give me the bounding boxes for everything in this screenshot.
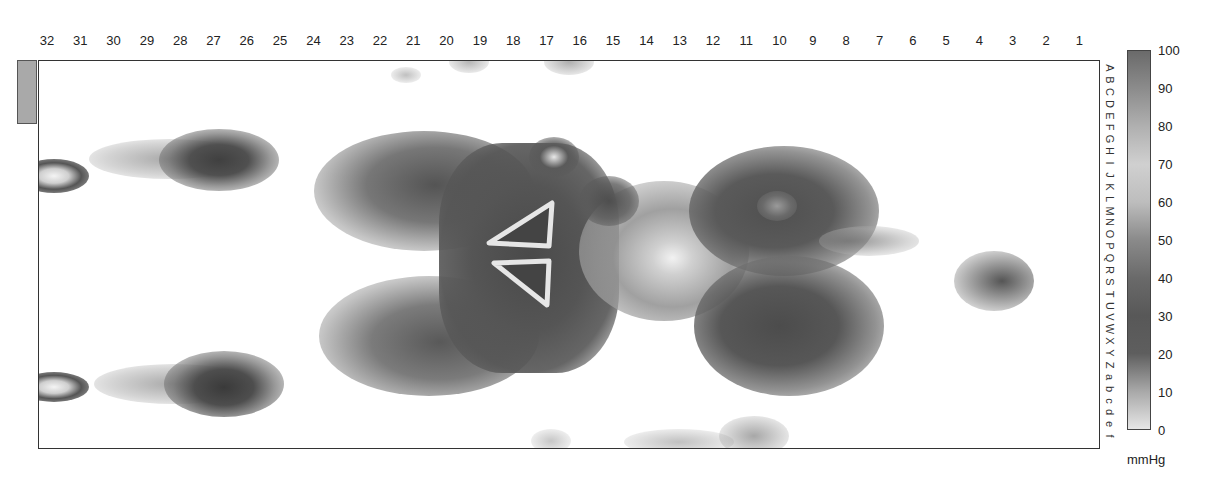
colorbar-tick: 40: [1158, 271, 1172, 286]
column-label: 29: [132, 33, 162, 48]
column-label: 24: [298, 33, 328, 48]
colorbar-tick: 90: [1158, 81, 1172, 96]
row-label: f: [1104, 429, 1116, 443]
central-top-tip: [529, 137, 579, 177]
lower-heel-core: [164, 351, 284, 417]
column-label: 14: [631, 33, 661, 48]
column-label: 1: [1064, 33, 1094, 48]
lower-left-ring-outer: [38, 372, 89, 402]
column-label: 3: [998, 33, 1028, 48]
column-label: 13: [665, 33, 695, 48]
column-label: 10: [765, 33, 795, 48]
column-label: 21: [398, 33, 428, 48]
colorbar-tick: 100: [1158, 43, 1180, 58]
right-lower-lobe: [694, 256, 884, 396]
column-label: 30: [99, 33, 129, 48]
colorbar-tick: 60: [1158, 195, 1172, 210]
colorbar: [1127, 50, 1151, 430]
column-label: 8: [831, 33, 861, 48]
bottom-edge-spot-2: [624, 429, 734, 449]
column-label: 25: [265, 33, 295, 48]
right-upper-highlight: [757, 191, 797, 221]
upper-left-ring-outer: [38, 159, 89, 193]
row-labels: ABCDEFGHIJKLMNOPQRSTUVWXYZabcdef: [1103, 60, 1117, 449]
column-label: 22: [365, 33, 395, 48]
column-label: 11: [731, 33, 761, 48]
colorbar-tick: 10: [1158, 385, 1172, 400]
column-label: 5: [931, 33, 961, 48]
top-edge-spot-2: [544, 60, 594, 75]
column-label: 17: [532, 33, 562, 48]
upper-heel-core: [159, 129, 279, 191]
column-label: 28: [165, 33, 195, 48]
column-label: 15: [598, 33, 628, 48]
column-label: 20: [432, 33, 462, 48]
column-label: 12: [698, 33, 728, 48]
colorbar-ticks: 1009080706050403020100: [1158, 50, 1208, 430]
column-label: 19: [465, 33, 495, 48]
bottom-edge-spot-3: [719, 416, 789, 449]
column-label: 31: [65, 33, 95, 48]
column-label: 26: [232, 33, 262, 48]
column-label: 16: [565, 33, 595, 48]
column-labels: 3231302928272625242322212019181716151413…: [0, 33, 1100, 49]
side-tab: [17, 60, 37, 124]
colorbar-tick: 50: [1158, 233, 1172, 248]
colorbar-tick: 70: [1158, 157, 1172, 172]
column-label: 4: [964, 33, 994, 48]
bridge-dark-upper: [579, 176, 639, 226]
column-label: 18: [498, 33, 528, 48]
column-label: 27: [199, 33, 229, 48]
top-spot-small: [391, 67, 421, 83]
column-label: 23: [332, 33, 362, 48]
column-label: 9: [798, 33, 828, 48]
column-label: 7: [865, 33, 895, 48]
bottom-edge-spot-1: [531, 429, 571, 449]
heatmap-plot-area: [38, 60, 1100, 449]
colorbar-tick: 20: [1158, 347, 1172, 362]
small-spot: [954, 251, 1034, 311]
column-label: 32: [32, 33, 62, 48]
colorbar-tick: 0: [1158, 423, 1165, 438]
colorbar-tick: 30: [1158, 309, 1172, 324]
central-triangles: [469, 191, 589, 311]
top-edge-spot-1: [449, 60, 489, 73]
right-finger: [819, 226, 919, 256]
column-label: 6: [898, 33, 928, 48]
colorbar-unit-label: mmHg: [1127, 452, 1165, 467]
column-label: 2: [1031, 33, 1061, 48]
colorbar-tick: 80: [1158, 119, 1172, 134]
